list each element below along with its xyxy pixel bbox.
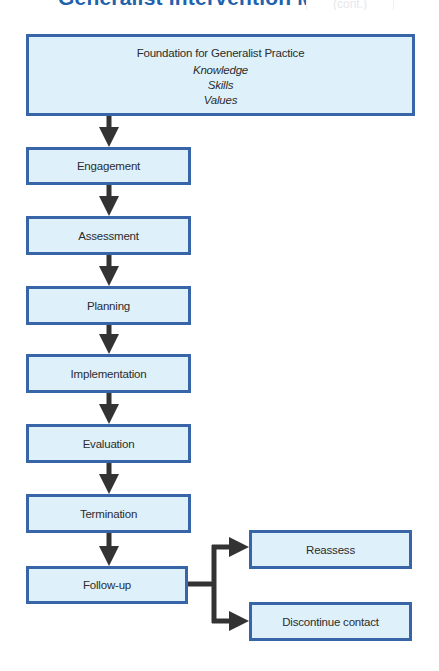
step-follow-up: Follow-up xyxy=(26,566,188,604)
step-label: Planning xyxy=(87,300,130,312)
branch-label: Reassess xyxy=(306,544,355,556)
step-label: Engagement xyxy=(77,160,140,172)
step-label: Follow-up xyxy=(83,579,131,591)
step-label: Evaluation xyxy=(83,438,135,450)
foundation-item-values: Values xyxy=(204,93,238,108)
step-label: Assessment xyxy=(78,230,139,242)
step-implementation: Implementation xyxy=(26,354,191,393)
foundation-item-skills: Skills xyxy=(208,78,234,93)
step-label: Implementation xyxy=(71,368,147,380)
foundation-box: Foundation for Generalist Practice Knowl… xyxy=(26,34,415,116)
step-planning: Planning xyxy=(26,286,191,325)
foundation-heading: Foundation for Generalist Practice xyxy=(137,46,305,61)
branch-label: Discontinue contact xyxy=(282,616,379,628)
branch-discontinue-contact: Discontinue contact xyxy=(249,602,412,641)
step-termination: Termination xyxy=(26,494,191,533)
step-label: Termination xyxy=(80,508,137,520)
step-engagement: Engagement xyxy=(26,147,191,185)
step-assessment: Assessment xyxy=(26,216,191,255)
branch-reassess: Reassess xyxy=(249,530,412,569)
foundation-item-knowledge: Knowledge xyxy=(193,63,248,78)
step-evaluation: Evaluation xyxy=(26,424,191,463)
